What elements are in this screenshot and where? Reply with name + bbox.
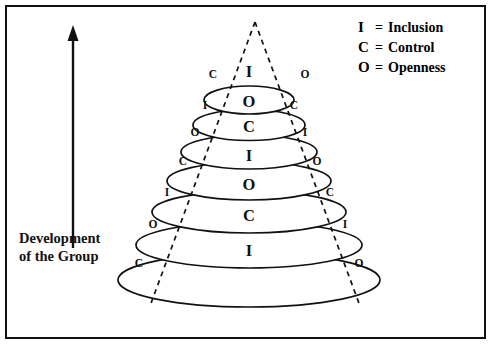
tier-right-letter-2: C [290,99,298,111]
tier-center-letter-7: I [246,241,252,260]
development-arrow [68,25,79,248]
tier-center-letter-5: O [243,175,256,194]
legend-equals-inclusion: = [375,18,388,38]
legend-term-openness: Openness [388,58,446,78]
tier-left-letter-2: I [203,99,208,111]
legend-equals-openness: = [375,58,388,78]
legend-key-control: C [358,37,375,57]
tier-center-letter-6: C [243,206,255,225]
tier-right-letter-5: C [326,186,334,198]
legend: I = Inclusion C = Control O = Openness [358,17,478,77]
tier-left-letter-5: I [165,186,170,198]
tier-right-letter-6: I [343,218,348,230]
figure-canvas: I C O O I C C O I I C O O I C C O I I C … [0,0,494,348]
development-axis-label: Development of the Group [19,229,144,265]
development-axis-label-line1: Development [19,229,144,247]
tier-right-letter-4: O [313,155,322,167]
development-axis-label-line2: of the Group [19,247,144,265]
legend-key-openness: O [358,57,375,77]
legend-row-control: C = Control [358,37,478,57]
tier-left-letter-6: O [149,218,158,230]
legend-row-inclusion: I = Inclusion [358,17,478,37]
tier-right-letter-3: I [303,126,308,138]
legend-key-inclusion: I [358,17,375,37]
tier-center-letter-2: O [243,92,256,111]
tier-center-letter-1: I [246,62,252,81]
tier-center-letter-4: I [246,146,252,165]
tier-left-letter-1: C [209,68,217,80]
tier-right-letter-1: O [301,68,310,80]
legend-term-control: Control [388,38,434,58]
legend-term-inclusion: Inclusion [388,18,443,38]
legend-row-openness: O = Openness [358,57,478,77]
tier-left-letter-3: O [191,126,200,138]
tier-left-letter-4: C [179,155,187,167]
legend-equals-control: = [375,38,388,58]
tier-right-letter-7: O [355,257,364,269]
tier-center-letter-3: C [243,117,255,136]
